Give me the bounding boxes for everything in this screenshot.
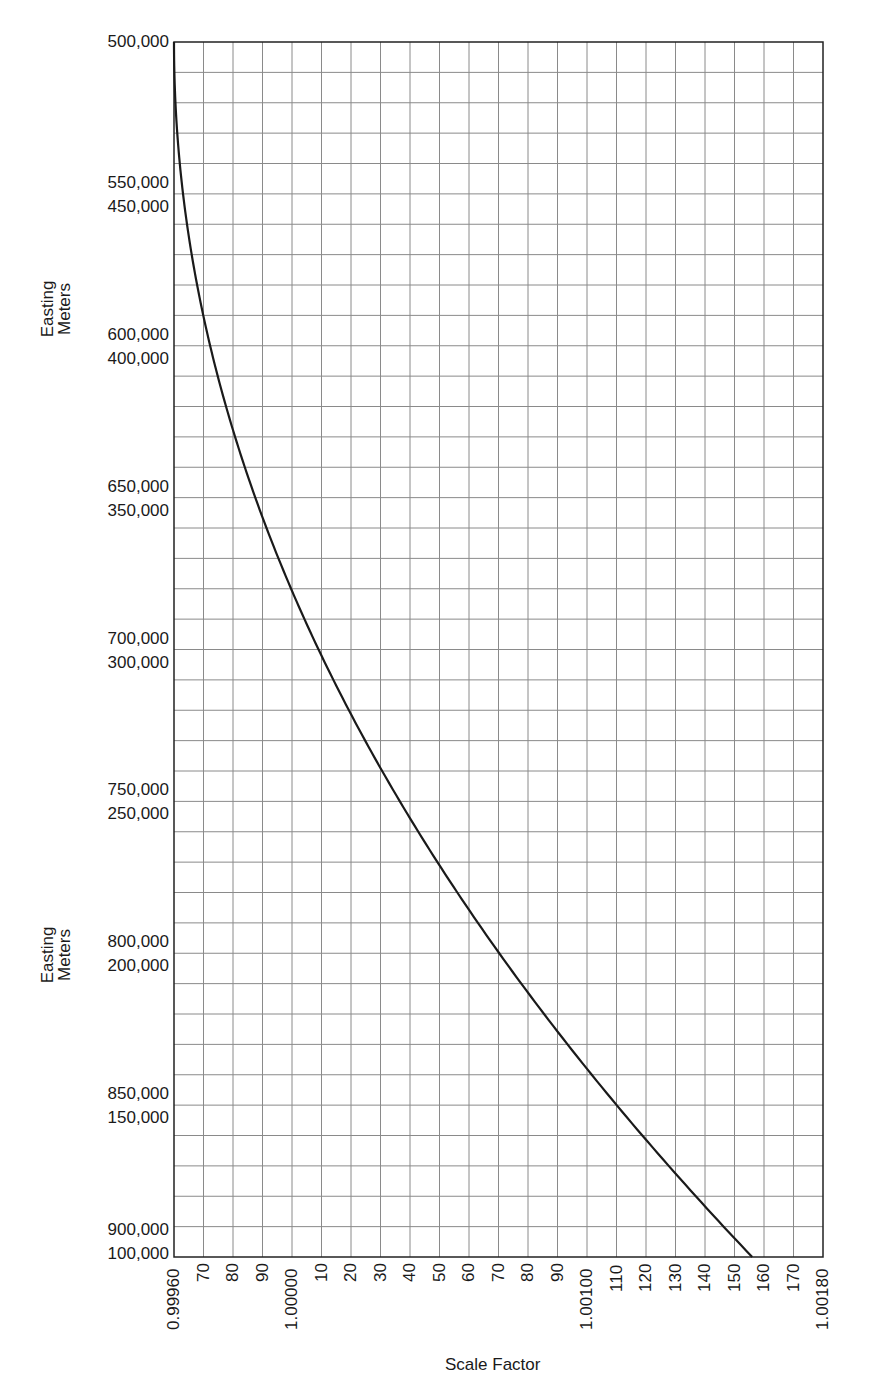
- x-tick-label: 160: [755, 1263, 772, 1291]
- x-tick-label: 30: [372, 1263, 389, 1282]
- y-tick-label-west: 450,000: [108, 198, 169, 215]
- y-axis-title-upper: Easting Meters: [39, 249, 73, 369]
- x-tick-label: 170: [785, 1263, 802, 1291]
- x-tick-label: 70: [490, 1263, 507, 1282]
- x-tick-label: 110: [608, 1265, 625, 1292]
- x-tick-label: 0.99960: [165, 1269, 182, 1330]
- y-tick-label-west: 150,000: [108, 1109, 169, 1126]
- x-tick-label: 40: [401, 1263, 418, 1282]
- y-axis-title-line1: Easting: [39, 895, 56, 1015]
- y-axis-title-line2: Meters: [56, 895, 73, 1015]
- x-tick-label: 140: [696, 1263, 713, 1291]
- y-tick-label-east: 750,000: [108, 781, 169, 798]
- y-tick-label-west: 300,000: [108, 654, 169, 671]
- x-tick-label: 80: [519, 1263, 536, 1282]
- y-axis-title-lower: Easting Meters: [39, 895, 73, 1015]
- x-tick-label: 1.00100: [578, 1269, 595, 1330]
- y-axis-title-line2: Meters: [56, 249, 73, 369]
- y-tick-label-east: 700,000: [108, 630, 169, 647]
- x-tick-label: 120: [637, 1263, 654, 1291]
- y-tick-label: 500,000: [108, 33, 169, 50]
- scale-factor-chart: 500,000550,000450,000600,000400,000650,0…: [0, 0, 869, 1392]
- y-axis-title-line1: Easting: [39, 249, 56, 369]
- x-tick-label: 20: [342, 1263, 359, 1282]
- grid-lines: [174, 42, 823, 1257]
- x-tick-label: 80: [224, 1263, 241, 1282]
- y-tick-label-west: 100,000: [108, 1245, 169, 1262]
- y-tick-label-east: 850,000: [108, 1085, 169, 1102]
- x-tick-label: 10: [313, 1263, 330, 1282]
- x-tick-label: 1.00000: [283, 1269, 300, 1330]
- y-tick-label-west: 400,000: [108, 350, 169, 367]
- x-tick-label: 90: [549, 1263, 566, 1282]
- x-tick-label: 150: [726, 1263, 743, 1291]
- y-tick-label-east: 650,000: [108, 478, 169, 495]
- y-tick-label-east: 800,000: [108, 933, 169, 950]
- x-tick-label: 60: [460, 1263, 477, 1282]
- x-tick-label: 70: [195, 1263, 212, 1282]
- y-tick-label-west: 250,000: [108, 805, 169, 822]
- y-tick-label-west: 200,000: [108, 957, 169, 974]
- x-axis-title: Scale Factor: [445, 1355, 540, 1375]
- x-tick-label: 50: [431, 1263, 448, 1282]
- y-tick-label-east: 550,000: [108, 174, 169, 191]
- x-tick-label: 1.00180: [814, 1269, 831, 1330]
- y-tick-label-west: 350,000: [108, 502, 169, 519]
- x-tick-label: 130: [667, 1263, 684, 1291]
- y-tick-label-east: 900,000: [108, 1221, 169, 1238]
- x-tick-label: 90: [254, 1263, 271, 1282]
- y-tick-label-east: 600,000: [108, 326, 169, 343]
